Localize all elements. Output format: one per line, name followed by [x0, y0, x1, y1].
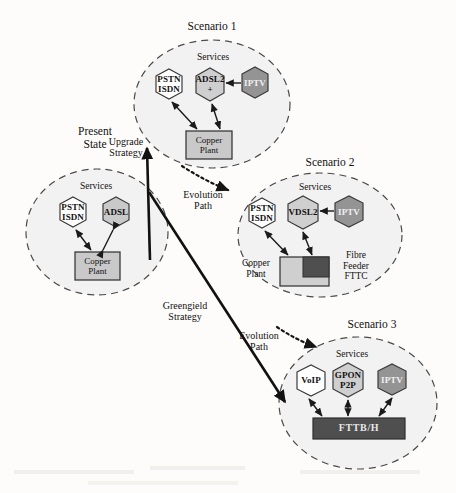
node-vdsl2-s2[interactable]	[288, 196, 318, 229]
node-iptv-s3[interactable]	[378, 364, 406, 395]
infra-copper-plant-present[interactable]	[75, 252, 120, 280]
cluster-present-state	[26, 169, 168, 295]
node-iptv-s2[interactable]	[335, 196, 363, 227]
cluster-scenario-1	[134, 40, 290, 168]
node-adsl2plus-s1[interactable]	[196, 68, 224, 101]
node-iptv-s1[interactable]	[242, 67, 268, 98]
node-pstn-isdn-present[interactable]	[60, 197, 86, 227]
diagram-canvas	[0, 0, 456, 493]
arrow-evolution-path-1	[182, 166, 228, 190]
node-pstn-isdn-s2[interactable]	[249, 198, 275, 228]
infra-fttbh-s3[interactable]	[313, 418, 405, 439]
cluster-scenario-3	[279, 337, 437, 469]
scenario-3-boundary	[279, 337, 437, 469]
cluster-scenario-2	[238, 173, 402, 297]
arrow-evolution-path-2	[277, 327, 316, 347]
infra-copper-plant-s1[interactable]	[186, 131, 232, 159]
node-gpon-p2p-s3[interactable]	[333, 363, 363, 397]
node-voip-s3[interactable]	[297, 365, 325, 396]
infra-fibre-feeder-s2[interactable]	[303, 257, 329, 277]
node-pstn-isdn-s1[interactable]	[156, 69, 182, 99]
node-adsl-present[interactable]	[103, 197, 129, 227]
